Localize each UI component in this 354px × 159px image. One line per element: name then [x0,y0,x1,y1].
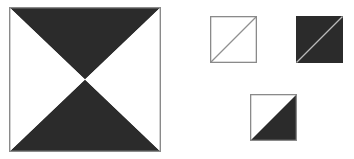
figure-canvas [0,0,354,159]
dark-square-with-light-diagonal [296,16,343,63]
half-split-square-svg [250,94,297,141]
outline-square-with-diagonal [210,16,257,63]
half-split-square [250,94,297,141]
main-bowtie-square [9,7,161,152]
main-bowtie-square-svg [9,7,161,152]
dark-square-with-light-diagonal-svg [296,16,343,63]
outline-square-with-diagonal-svg [210,16,257,63]
